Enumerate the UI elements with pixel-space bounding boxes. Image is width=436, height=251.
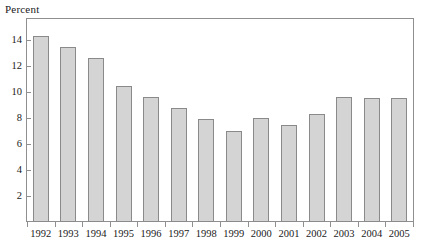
x-axis-tick-mark — [385, 222, 386, 227]
bar — [364, 98, 380, 222]
x-axis-tick-mark — [82, 222, 83, 227]
y-axis-tick-label: 8 — [0, 113, 22, 123]
y-axis-title: Percent — [5, 3, 39, 16]
x-axis-tick-mark — [55, 222, 56, 227]
bar — [198, 119, 214, 222]
bar — [226, 131, 242, 222]
y-axis-tick-label: 14 — [0, 35, 22, 45]
bar — [143, 97, 159, 222]
x-axis-tick-mark — [303, 222, 304, 227]
x-axis-tick-mark — [330, 222, 331, 227]
bar — [88, 58, 104, 222]
y-axis-tick-label: 12 — [0, 61, 22, 71]
bar — [281, 125, 297, 223]
bar — [336, 97, 352, 222]
x-axis-tick-mark — [137, 222, 138, 227]
x-axis-tick-mark — [192, 222, 193, 227]
bar — [391, 98, 407, 222]
x-axis-tick-mark — [110, 222, 111, 227]
x-axis-tick-mark — [220, 222, 221, 227]
y-axis-tick-label: 2 — [0, 191, 22, 201]
bar — [116, 86, 132, 223]
y-axis-tick-label: 6 — [0, 139, 22, 149]
bar — [60, 47, 76, 223]
y-axis-tick-label: 4 — [0, 165, 22, 175]
bar — [309, 114, 325, 222]
x-axis-tick-mark — [248, 222, 249, 227]
bar — [171, 108, 187, 222]
x-axis-tick-mark — [413, 222, 414, 227]
bar — [253, 118, 269, 222]
x-axis-tick-label: 2005 — [379, 228, 419, 240]
bar-chart: Percent 2468101214 199219931994199519961… — [0, 0, 436, 251]
x-axis-tick-mark — [27, 222, 28, 227]
x-axis-tick-mark — [358, 222, 359, 227]
y-axis-tick-label: 10 — [0, 87, 22, 97]
plot-area — [27, 19, 413, 222]
bar — [33, 36, 49, 222]
x-axis-tick-mark — [165, 222, 166, 227]
x-axis-tick-mark — [275, 222, 276, 227]
